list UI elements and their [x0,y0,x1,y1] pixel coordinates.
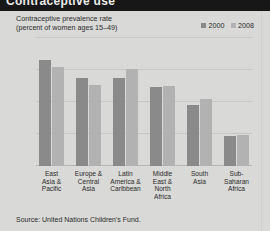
bar-groups [36,37,252,166]
bar-2008 [163,86,175,166]
legend-item-2000: 2000 [201,22,225,29]
bar-2008 [237,135,249,166]
source-note: Source: United Nations Children's Fund. [16,216,141,223]
bar-2008 [52,67,64,166]
bar-2000 [224,136,236,166]
legend-label-2000: 2000 [209,22,225,29]
legend-swatch-icon-2000 [201,23,206,28]
chart-figure: Contraceptive use Contraceptive prevalen… [0,0,270,231]
bar-2008 [126,69,138,166]
x-axis-label: SouthAsia [182,170,218,200]
page-divider-rule [261,11,262,231]
bar-group [147,37,178,166]
bar-2000 [150,87,162,166]
bar-2008 [200,99,212,166]
x-axis-label: EastAsia &Pacific [34,170,70,200]
bar-group [110,37,141,166]
chart-subtitle: Contraceptive prevalence rate (percent o… [16,15,118,32]
legend-label-2008: 2008 [238,22,254,29]
bar-group [221,37,252,166]
x-axis-label: MiddleEast &NorthAfrica [145,170,181,200]
plot-area: 100 75 50 25 0 [36,37,252,166]
section-banner: Contraceptive use [0,0,270,11]
bar-2000 [39,60,51,166]
bar-2000 [187,105,199,166]
x-axis-label: Europe &CentralAsia [71,170,107,200]
chart-legend: 2000 2008 [201,22,254,29]
banner-headline: Contraceptive use [6,0,115,8]
legend-item-2008: 2008 [231,22,255,29]
x-axis-label: LatinAmerica &Caribbean [108,170,144,200]
legend-swatch-icon-2008 [231,23,236,28]
bar-group [73,37,104,166]
x-axis-labels: EastAsia &PacificEurope &CentralAsiaLati… [36,170,252,200]
bar-2000 [76,78,88,166]
bar-2000 [113,78,125,166]
bar-group [184,37,215,166]
bar-group [36,37,67,166]
x-axis-label: Sub-SaharanAfrica [219,170,255,200]
bar-2008 [89,85,101,166]
chart-subtitle-line2: (percent of women ages 15–49) [16,24,118,33]
